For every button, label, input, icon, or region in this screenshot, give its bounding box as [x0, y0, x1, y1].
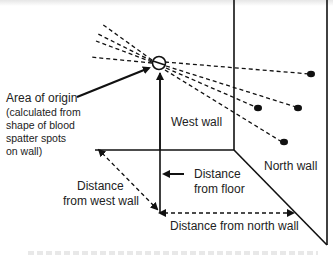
label-area-of-origin: Area of origin [6, 91, 77, 105]
label-area-note-4: on wall) [6, 145, 42, 158]
cropped-caption-text [28, 251, 318, 255]
label-distance-from-west-wall-1: Distance [77, 179, 124, 193]
label-north-wall: North wall [264, 159, 317, 173]
label-distance-from-floor-1: Distance [194, 167, 241, 181]
label-area-note-1: (calculated from [6, 106, 81, 119]
label-distance-from-north-wall: Distance from north wall [170, 219, 299, 233]
spatter-spots [254, 71, 315, 145]
label-area-note-3: spatter spots [6, 132, 66, 145]
origin-marker-icon [153, 57, 166, 70]
area-of-origin-pointer [77, 68, 149, 97]
label-distance-from-west-wall-2: from west wall [63, 194, 139, 208]
blood-spatter-diagram: Area of origin (calculated from shape of… [0, 0, 333, 260]
north-wall-lines [234, 0, 327, 245]
label-area-note-2: shape of blood [6, 119, 75, 132]
label-west-wall: West wall [171, 115, 222, 129]
label-distance-from-floor-2: from floor [194, 182, 245, 196]
